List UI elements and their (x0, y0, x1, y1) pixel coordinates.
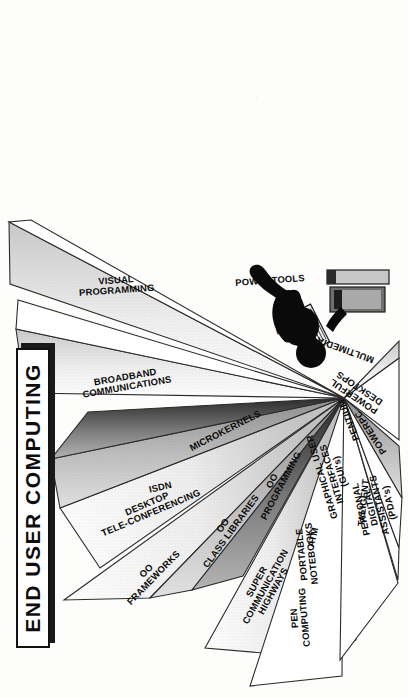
page-title: END USER COMPUTING (21, 363, 45, 633)
slide-stage: END USER COMPUTING OO FRAMEWORKS OO CLAS… (0, 0, 408, 698)
slide-canvas: END USER COMPUTING OO FRAMEWORKS OO CLAS… (0, 0, 408, 698)
slide-title-plate: END USER COMPUTING (16, 348, 50, 648)
